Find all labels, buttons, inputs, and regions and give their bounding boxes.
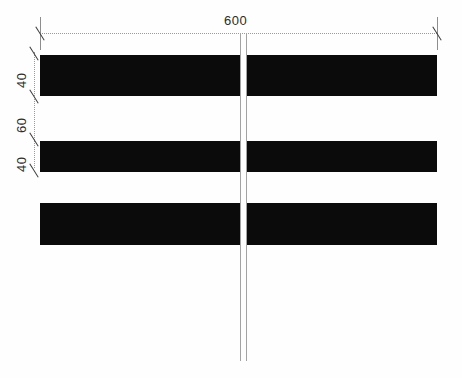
vertical-centerline-left	[240, 33, 241, 361]
dimension-line-horizontal	[40, 33, 437, 34]
bar-middle-right-segment	[246, 141, 437, 172]
vertical-centerline-right	[246, 33, 247, 361]
dimension-label-60-middle: 60	[14, 118, 29, 133]
dimension-line-vertical	[34, 52, 35, 168]
technical-drawing-canvas: 600 40 60 40	[0, 0, 462, 378]
dimension-label-40-top: 40	[14, 73, 29, 88]
bar-middle-left-segment	[40, 141, 240, 172]
bar-bottom-right-segment	[246, 203, 437, 245]
dimension-label-40-bottom: 40	[14, 157, 29, 172]
bar-top-right-segment	[246, 55, 437, 96]
bar-bottom-left-segment	[40, 203, 240, 245]
bar-top-left-segment	[40, 55, 240, 96]
dimension-label-600: 600	[224, 13, 247, 28]
